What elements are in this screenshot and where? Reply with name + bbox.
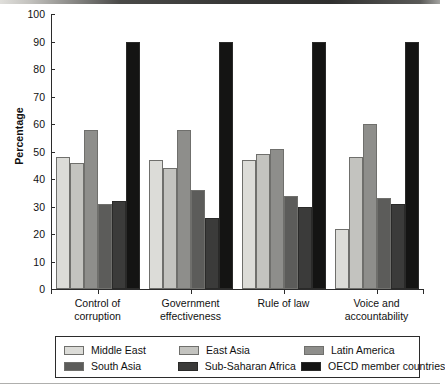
bar — [177, 130, 191, 290]
x-axis-line — [51, 289, 423, 290]
x-axis-end-tick — [423, 289, 424, 294]
y-axis-tick-label: 10 — [33, 256, 51, 268]
x-axis-tick — [377, 289, 378, 294]
bar — [112, 201, 126, 289]
legend-label: Latin America — [331, 344, 395, 356]
bar-group — [242, 14, 326, 289]
bar — [405, 42, 419, 290]
bar — [312, 42, 326, 290]
legend-label: South Asia — [91, 360, 141, 372]
y-axis-tick-label: 70 — [33, 91, 51, 103]
legend-label: Sub-Saharan Africa — [205, 360, 296, 372]
bar — [205, 218, 219, 290]
bar-group-bars — [242, 14, 326, 289]
bar-group — [56, 14, 140, 289]
y-axis-tick-label: 0 — [39, 283, 51, 295]
legend-swatch — [64, 362, 84, 371]
legend-row: South AsiaSub-Saharan AfricaOECD member … — [64, 358, 419, 374]
legend-swatch — [178, 362, 198, 371]
x-axis-category-label: Control of corruption — [51, 297, 144, 323]
y-axis-tick-label: 40 — [33, 173, 51, 185]
legend-label: OECD member countries — [328, 360, 445, 372]
y-axis-tick-mark — [51, 262, 55, 263]
bar — [298, 207, 312, 290]
bar — [363, 124, 377, 289]
bar-group — [335, 14, 419, 289]
legend-label: Middle East — [91, 344, 146, 356]
y-axis-tick-mark — [51, 42, 55, 43]
bar — [163, 168, 177, 289]
x-axis-category-label: Voice and accountability — [330, 297, 423, 323]
legend-item: East Asia — [179, 344, 304, 356]
x-axis-tick — [284, 289, 285, 294]
x-axis-end-tick — [51, 289, 52, 294]
y-axis-tick-label: 50 — [33, 146, 51, 158]
bar — [126, 42, 140, 290]
y-axis-label: Percentage — [13, 96, 25, 176]
y-axis-tick: 80 — [33, 63, 51, 75]
bar — [56, 157, 70, 289]
bar — [391, 204, 405, 289]
legend-swatch — [179, 346, 199, 355]
y-axis-tick: 60 — [33, 118, 51, 130]
legend-item: OECD member countries — [301, 360, 419, 372]
legend-item: Sub-Saharan Africa — [178, 360, 301, 372]
x-axis-category-label: Rule of law — [237, 297, 330, 310]
bar — [377, 198, 391, 289]
y-axis-tick-mark — [51, 234, 55, 235]
bar — [219, 42, 233, 290]
legend-swatch — [64, 346, 84, 355]
y-axis-tick-mark — [51, 124, 55, 125]
y-axis-tick-label: 90 — [33, 36, 51, 48]
bar — [191, 190, 205, 289]
y-axis-tick: 10 — [33, 256, 51, 268]
bar — [335, 229, 349, 290]
y-axis-tick: 90 — [33, 36, 51, 48]
bar-group-bars — [335, 14, 419, 289]
y-axis-tick-label: 100 — [27, 8, 51, 20]
legend-item: Latin America — [304, 344, 419, 356]
y-axis-tick: 30 — [33, 201, 51, 213]
x-axis-tick — [98, 289, 99, 294]
legend-label: East Asia — [206, 344, 250, 356]
bar — [84, 130, 98, 290]
y-axis-tick-mark — [51, 97, 55, 98]
legend-swatch — [301, 362, 321, 371]
legend-row: Middle EastEast AsiaLatin America — [64, 342, 419, 358]
y-axis-tick-mark — [51, 179, 55, 180]
bar — [98, 204, 112, 289]
y-axis-tick: 20 — [33, 228, 51, 240]
grouped-bar-chart: Percentage 0102030405060708090100 Contro… — [0, 0, 440, 330]
y-axis-tick-label: 30 — [33, 201, 51, 213]
y-axis-tick-mark — [51, 14, 55, 15]
y-axis-tick: 70 — [33, 91, 51, 103]
y-axis-tick: 100 — [27, 8, 51, 20]
bar-group-bars — [56, 14, 140, 289]
legend-swatch — [304, 346, 324, 355]
bar — [284, 196, 298, 290]
bar — [256, 154, 270, 289]
bar — [149, 160, 163, 289]
y-axis-tick-mark — [51, 207, 55, 208]
bar-group-bars — [149, 14, 233, 289]
y-axis-tick: 50 — [33, 146, 51, 158]
bar — [70, 163, 84, 290]
x-axis-tick — [191, 289, 192, 294]
bar — [270, 149, 284, 289]
y-axis-tick-label: 80 — [33, 63, 51, 75]
y-axis-tick: 0 — [39, 283, 51, 295]
y-axis-tick: 40 — [33, 173, 51, 185]
y-axis-tick-mark — [51, 152, 55, 153]
legend-item: South Asia — [64, 360, 178, 372]
y-axis-tick-label: 60 — [33, 118, 51, 130]
y-axis-tick-mark — [51, 69, 55, 70]
bar — [349, 157, 363, 289]
scan-artifact-bottom — [0, 383, 440, 384]
legend-item: Middle East — [64, 344, 179, 356]
x-axis-category-label: Government effectiveness — [144, 297, 237, 323]
bar — [242, 160, 256, 289]
bar-group — [149, 14, 233, 289]
y-axis-tick-label: 20 — [33, 228, 51, 240]
plot-area: 0102030405060708090100 — [51, 14, 423, 289]
chart-legend: Middle EastEast AsiaLatin AmericaSouth A… — [55, 336, 420, 378]
